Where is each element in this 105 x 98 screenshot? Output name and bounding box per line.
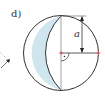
marker-right: [97, 51, 101, 55]
right-angle-dot: [64, 56, 66, 58]
dimension-label-a: a: [74, 28, 80, 39]
marker-center: [59, 51, 63, 55]
partial-dashed-line: [0, 52, 6, 58]
part-label: d): [11, 8, 21, 19]
shaded-lune: [32, 16, 61, 90]
arrowhead-down-icon: [80, 48, 84, 53]
arrowhead-up-icon: [80, 16, 84, 21]
